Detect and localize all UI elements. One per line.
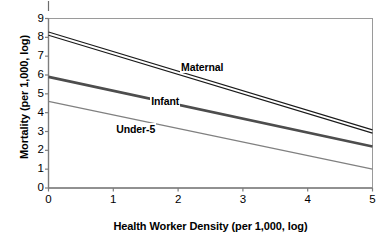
y-tick-label: 4	[26, 107, 44, 119]
x-tick-label: 0	[39, 193, 59, 205]
series-line-maternal	[49, 32, 373, 133]
x-tick-label: 2	[168, 193, 188, 205]
y-tick-label: 8	[26, 31, 44, 43]
plot-frame	[49, 19, 373, 189]
series-label-maternal: Maternal	[180, 61, 224, 73]
chart-figure: Mortality (per 1,000, log) Health Worker…	[0, 0, 387, 243]
y-tick-label: 6	[26, 69, 44, 81]
chart-canvas	[0, 0, 387, 243]
y-tick-label: 0	[26, 182, 44, 194]
x-tick-label: 1	[103, 193, 123, 205]
x-tick-label: 3	[233, 193, 253, 205]
y-tick-label: 5	[26, 88, 44, 100]
y-tick-label: 3	[26, 126, 44, 138]
y-tick-labels: 0123456789	[22, 0, 44, 243]
y-tick-label: 2	[26, 144, 44, 156]
y-tick-label: 9	[26, 13, 44, 25]
x-tick-label: 5	[363, 193, 383, 205]
series-label-infant: Infant	[150, 95, 180, 107]
x-axis-title: Health Worker Density (per 1,000, log)	[48, 220, 373, 232]
y-tick-label: 7	[26, 50, 44, 62]
y-tick-label: 1	[26, 163, 44, 175]
series-label-under-5: Under-5	[115, 123, 156, 135]
x-tick-label: 4	[298, 193, 318, 205]
series-lines	[49, 32, 373, 169]
